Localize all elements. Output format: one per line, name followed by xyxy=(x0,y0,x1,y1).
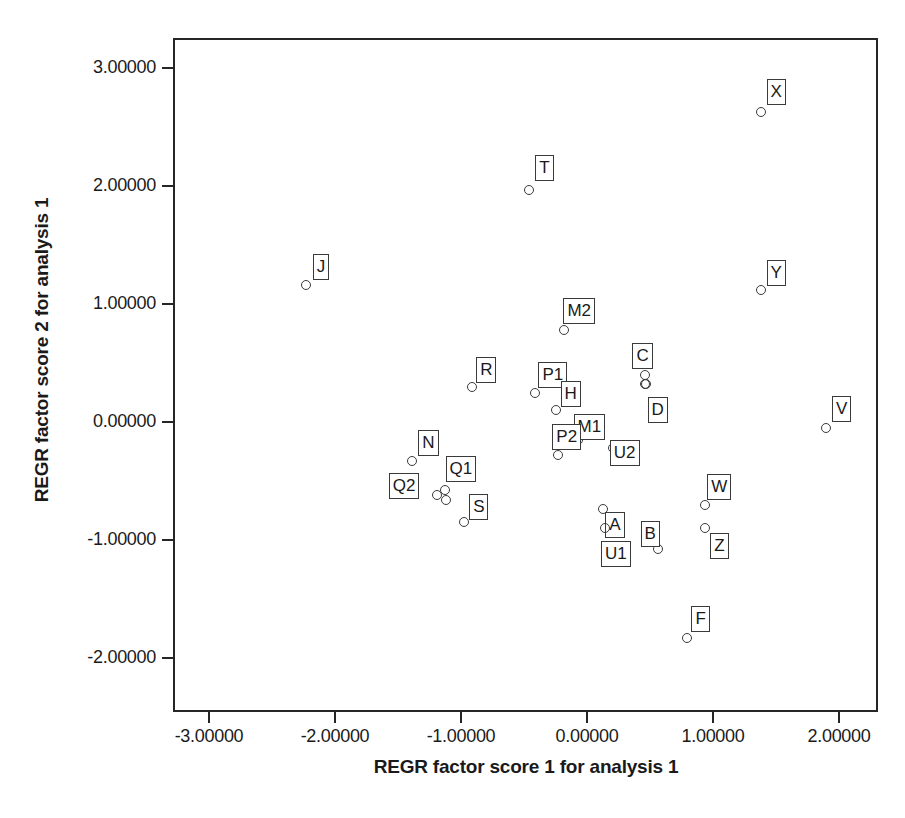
x-axis-tick xyxy=(712,712,714,723)
data-point-label: W xyxy=(707,474,731,500)
data-point-label: J xyxy=(313,254,330,280)
y-axis-tick-label: 0.00000 xyxy=(20,411,156,432)
data-point-marker xyxy=(551,405,561,415)
data-point-marker xyxy=(756,285,766,295)
scatter-plot-figure: REGR factor score 2 for analysis 1 3.000… xyxy=(0,0,905,818)
y-axis-tick xyxy=(162,185,173,187)
data-point-label: T xyxy=(535,155,553,181)
data-point-label: R xyxy=(476,357,496,383)
data-point-label: C xyxy=(632,343,652,369)
data-point-label: F xyxy=(691,606,709,632)
data-point-label: S xyxy=(469,494,488,520)
x-axis-tick-label: -3.00000 xyxy=(147,726,271,747)
data-point-label: N xyxy=(418,430,438,456)
data-point-label: Z xyxy=(710,533,728,559)
x-axis-tick-label: -2.00000 xyxy=(273,726,397,747)
x-axis-tick-label: 0.00000 xyxy=(525,726,649,747)
x-axis-tick xyxy=(334,712,336,723)
y-axis-tick xyxy=(162,421,173,423)
data-point-marker xyxy=(600,523,610,533)
x-axis-tick-label: 2.00000 xyxy=(777,726,901,747)
data-point-marker xyxy=(682,633,692,643)
data-point-marker xyxy=(407,456,417,466)
y-axis-tick xyxy=(162,303,173,305)
data-point-label: P2 xyxy=(552,424,581,450)
y-axis-tick-label: -1.00000 xyxy=(20,529,156,550)
x-axis-tick-label: 1.00000 xyxy=(651,726,775,747)
y-axis-tick xyxy=(162,67,173,69)
data-point-label: D xyxy=(648,397,668,423)
y-axis-tick xyxy=(162,539,173,541)
x-axis-tick xyxy=(838,712,840,723)
data-point-marker xyxy=(467,382,477,392)
data-point-marker xyxy=(524,185,534,195)
data-point-marker xyxy=(441,495,451,505)
data-point-label: Y xyxy=(767,260,786,286)
plot-frame xyxy=(173,38,878,712)
data-point-label: U1 xyxy=(601,541,631,567)
y-axis-tick-label: 1.00000 xyxy=(20,293,156,314)
data-point-label: M2 xyxy=(563,298,595,324)
x-axis-tick xyxy=(208,712,210,723)
data-point-label: B xyxy=(641,521,660,547)
x-axis-tick xyxy=(460,712,462,723)
data-point-marker xyxy=(756,107,766,117)
data-point-label: V xyxy=(832,396,851,422)
data-point-label: Q1 xyxy=(446,456,477,482)
y-axis-tick-label: -2.00000 xyxy=(20,647,156,668)
data-point-label: H xyxy=(561,381,581,407)
x-axis-tick-label: -1.00000 xyxy=(399,726,523,747)
data-point-marker xyxy=(459,517,469,527)
y-axis-tick xyxy=(162,657,173,659)
x-axis-title: REGR factor score 1 for analysis 1 xyxy=(173,756,879,778)
x-axis-tick xyxy=(586,712,588,723)
data-point-label: X xyxy=(767,79,786,105)
data-point-marker xyxy=(530,388,540,398)
data-point-label: U2 xyxy=(610,440,640,466)
data-point-label: Q2 xyxy=(389,473,420,499)
y-axis-title: REGR factor score 2 for analysis 1 xyxy=(22,0,62,700)
y-axis-tick-label: 3.00000 xyxy=(20,57,156,78)
data-point-marker xyxy=(553,450,563,460)
y-axis-tick-label: 2.00000 xyxy=(20,175,156,196)
